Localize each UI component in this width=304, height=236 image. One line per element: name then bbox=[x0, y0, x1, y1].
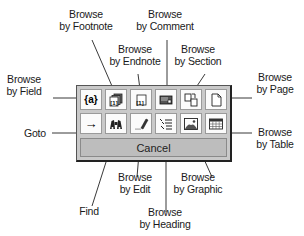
browse-by-graphic-button[interactable] bbox=[180, 113, 202, 134]
callout-browse-by-page: Browse by Page bbox=[256, 71, 293, 95]
browse-object-panel: {a} [1] [1] bbox=[76, 85, 232, 162]
comment-icon bbox=[158, 93, 174, 107]
page-icon bbox=[208, 93, 224, 107]
callout-browse-by-graphic: Browse by Graphic bbox=[174, 171, 223, 195]
endnote-icon: [1] bbox=[133, 93, 149, 107]
browse-by-footnote-button[interactable]: [1] bbox=[105, 89, 127, 110]
callout-goto: Goto bbox=[24, 127, 46, 139]
callout-browse-by-table: Browse by Table bbox=[256, 126, 293, 150]
browse-by-field-button[interactable]: {a} bbox=[80, 89, 102, 110]
browse-by-section-button[interactable] bbox=[180, 89, 202, 110]
browse-by-page-button[interactable] bbox=[205, 89, 227, 110]
svg-text:[1]: [1] bbox=[136, 100, 143, 106]
callout-browse-by-comment: Browse by Comment bbox=[136, 8, 194, 32]
callout-browse-by-section: Browse by Section bbox=[174, 43, 221, 67]
cancel-button[interactable]: Cancel bbox=[80, 138, 227, 157]
svg-text:[1]: [1] bbox=[110, 100, 117, 106]
section-icon bbox=[183, 93, 199, 107]
footnote-icon: [1] bbox=[108, 93, 124, 107]
cancel-label: Cancel bbox=[136, 142, 170, 154]
callout-browse-by-footnote: Browse by Footnote bbox=[59, 8, 112, 32]
picture-icon bbox=[183, 117, 199, 131]
callout-browse-by-heading: Browse by Heading bbox=[139, 206, 190, 230]
browse-by-heading-button[interactable] bbox=[155, 113, 177, 134]
callout-find: Find bbox=[79, 205, 99, 217]
callout-browse-by-edit: Browse by Edit bbox=[118, 171, 152, 195]
arrow-right-icon: → bbox=[85, 117, 98, 130]
pencil-edit-icon bbox=[133, 117, 149, 131]
browse-by-endnote-button[interactable]: [1] bbox=[130, 89, 152, 110]
table-icon bbox=[208, 117, 224, 131]
field-icon: {a} bbox=[84, 94, 97, 105]
browse-by-table-button[interactable] bbox=[205, 113, 227, 134]
goto-button[interactable]: → bbox=[80, 113, 102, 134]
callout-browse-by-endnote: Browse by Endnote bbox=[109, 43, 160, 67]
find-button[interactable] bbox=[105, 113, 127, 134]
browse-by-comment-button[interactable] bbox=[155, 89, 177, 110]
binoculars-icon bbox=[108, 117, 124, 131]
callout-browse-by-field: Browse by Field bbox=[6, 73, 41, 97]
heading-list-icon bbox=[158, 117, 174, 131]
browse-by-edit-button[interactable] bbox=[130, 113, 152, 134]
